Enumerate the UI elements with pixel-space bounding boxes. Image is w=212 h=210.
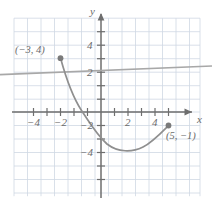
point-label-left: (−3, 4) xyxy=(15,45,45,56)
y-axis-label: y xyxy=(90,6,95,17)
y-tick-label-2: 2 xyxy=(87,67,93,78)
y-tick-label-neg4: −4 xyxy=(80,147,93,158)
y-tick-label-neg2: −2 xyxy=(80,120,93,131)
axis-lines xyxy=(12,14,192,198)
y-axis-arrowhead xyxy=(98,13,105,21)
x-axis-label: x xyxy=(197,114,202,125)
x-axis-arrowhead xyxy=(185,109,193,116)
x-tick-label-neg2: −2 xyxy=(54,117,67,128)
graph-figure: −4 −2 2 4 4 2 −2 −4 y x (−3, 4) (5, −1) xyxy=(0,0,212,210)
coordinate-plane-svg xyxy=(0,0,212,210)
x-tick-label-neg4: −4 xyxy=(27,117,40,128)
endpoint-marker-left xyxy=(58,55,64,61)
y-tick-label-4: 4 xyxy=(87,40,93,51)
x-tick-label-4: 4 xyxy=(152,117,158,128)
linear-function-curve xyxy=(0,66,212,75)
point-label-right: (5, −1) xyxy=(166,131,196,142)
x-tick-label-2: 2 xyxy=(125,117,131,128)
endpoint-marker-right xyxy=(166,123,172,129)
